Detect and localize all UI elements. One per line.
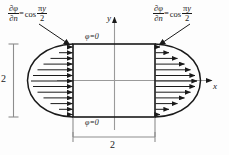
bc-right-formula: ∂φ ∂n =cos πy 2 — [153, 3, 192, 23]
bc-right-y: y — [187, 3, 191, 13]
bc-right-fraction: ∂φ ∂n — [153, 4, 164, 23]
y-axis-label: y — [107, 13, 111, 23]
bc-left-y: y — [42, 3, 46, 13]
phi-zero-bottom-label: φ=0 — [85, 118, 99, 127]
diagram-svg — [0, 0, 229, 155]
bc-left-fraction: ∂φ ∂n — [8, 4, 19, 23]
bc-left-formula: ∂φ ∂n =cos πy 2 — [8, 3, 47, 23]
coordinate-axes — [57, 17, 212, 130]
bc-right-num-phi: φ — [158, 3, 163, 13]
bc-right-den-n: n — [158, 13, 162, 23]
vertical-dimension — [9, 44, 19, 117]
bc-left-arg-fraction: πy 2 — [37, 4, 47, 23]
vertical-dimension-label: 2 — [1, 73, 6, 84]
bc-right-two: 2 — [182, 14, 192, 23]
horizontal-dimension-label: 2 — [110, 139, 115, 150]
bc-left-two: 2 — [37, 14, 47, 23]
x-axis-label: x — [213, 81, 217, 91]
phi-zero-top-label: φ=0 — [85, 32, 99, 41]
bc-left-num-phi: φ — [13, 3, 18, 13]
bc-right-cos: cos — [169, 9, 182, 19]
bc-left-den-n: n — [13, 13, 17, 23]
bc-right-arg-fraction: πy 2 — [182, 4, 192, 23]
figure-canvas: ∂φ ∂n =cos πy 2 ∂φ ∂n =cos πy 2 φ=0 φ=0 … — [0, 0, 229, 155]
bc-left-cos: cos — [24, 9, 37, 19]
left-leader-arrow — [39, 24, 70, 45]
right-leader-arrow — [159, 24, 190, 45]
